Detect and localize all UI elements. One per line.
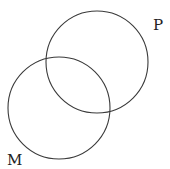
venn-diagram: P M — [0, 0, 170, 169]
label-p: P — [153, 16, 163, 34]
label-m: M — [7, 151, 22, 169]
circle-m — [8, 57, 110, 159]
circle-p — [46, 11, 148, 113]
